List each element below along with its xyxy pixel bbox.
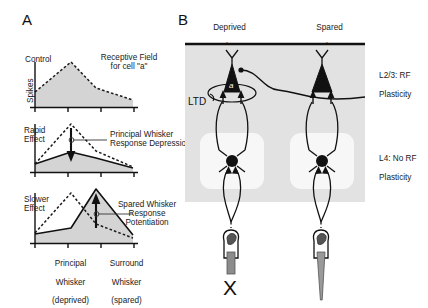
- whisker-shaft-trimmed: [227, 252, 235, 274]
- deprived-whisker-x-marker: X: [223, 276, 237, 300]
- figure-root: A Spikes Control Receptive Field for cel…: [0, 0, 428, 308]
- layer-label-l23-l1: L2/3: RF: [379, 71, 410, 80]
- panel-b-diagram: [0, 0, 428, 308]
- cell-a-label: a: [229, 82, 233, 91]
- l4-stellate-spared: [316, 155, 328, 167]
- layer-label-l4-l2: Plasticity: [379, 173, 411, 182]
- ltd-label: LTD: [188, 96, 206, 107]
- layer-label-l4: L4: No RF Plasticity: [370, 145, 416, 191]
- l4-stellate-deprived: [226, 155, 238, 167]
- layer-label-l4-l1: L4: No RF: [379, 154, 416, 163]
- whisker-follicle-deprived: [223, 230, 238, 274]
- layer-label-l23: L2/3: RF Plasticity: [370, 62, 411, 108]
- whisker-shaft-intact: [317, 252, 325, 300]
- whisker-follicle-spared: [313, 230, 328, 300]
- layer-label-l23-l2: Plasticity: [379, 90, 411, 99]
